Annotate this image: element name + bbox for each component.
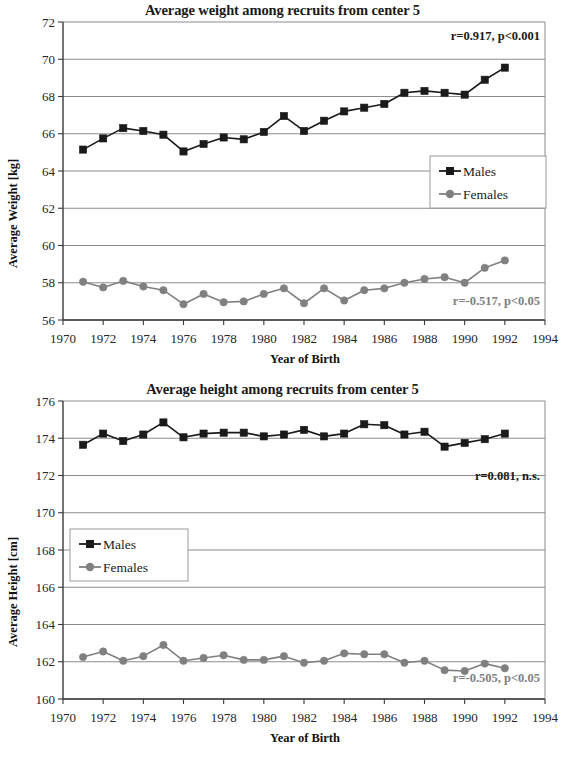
data-point-females: [501, 257, 508, 264]
data-point-females: [280, 285, 287, 292]
legend-marker-females: [86, 563, 94, 571]
data-point-females: [160, 641, 167, 648]
y-axis-tick-label: 172: [36, 468, 56, 483]
data-point-males: [461, 91, 468, 98]
x-axis-tick-label: 1992: [492, 710, 518, 725]
series-line-females: [83, 260, 505, 304]
data-point-males: [381, 100, 388, 107]
data-point-males: [220, 134, 227, 141]
y-axis-tick-label: 170: [36, 505, 56, 520]
y-axis-tick-label: 176: [36, 394, 56, 409]
data-point-females: [79, 278, 86, 285]
data-point-females: [381, 651, 388, 658]
data-point-males: [160, 131, 167, 138]
series-line-males: [83, 68, 505, 152]
data-point-males: [481, 76, 488, 83]
data-point-females: [381, 285, 388, 292]
data-point-females: [200, 290, 207, 297]
y-axis-tick-label: 60: [42, 238, 55, 253]
legend: MalesFemales: [70, 529, 188, 581]
data-point-females: [180, 300, 187, 307]
data-point-females: [140, 652, 147, 659]
x-axis-tick-label: 1982: [291, 710, 317, 725]
x-axis-tick-label: 1988: [412, 710, 438, 725]
data-point-males: [461, 439, 468, 446]
data-point-males: [280, 431, 287, 438]
x-axis-tick-label: 1972: [90, 331, 116, 346]
data-point-females: [220, 299, 227, 306]
x-axis-tick-label: 1978: [211, 710, 237, 725]
data-point-males: [200, 430, 207, 437]
data-point-females: [441, 666, 448, 673]
legend-marker-females: [446, 190, 454, 198]
data-point-females: [99, 648, 106, 655]
data-point-males: [180, 148, 187, 155]
data-point-males: [120, 125, 127, 132]
data-point-males: [441, 89, 448, 96]
legend-marker-males: [446, 167, 454, 175]
data-point-males: [481, 436, 488, 443]
data-point-males: [501, 430, 508, 437]
figure-page: Average weight among recruits from cente…: [0, 0, 565, 758]
x-axis-tick-label: 1994: [532, 331, 559, 346]
data-point-males: [381, 422, 388, 429]
y-axis-tick-label: 64: [42, 164, 56, 179]
data-point-males: [401, 89, 408, 96]
data-point-males: [441, 443, 448, 450]
legend-label-females: Females: [463, 187, 508, 202]
data-point-females: [361, 287, 368, 294]
data-point-males: [280, 112, 287, 119]
males-correlation-annotation: r=0.917, p<0.001: [451, 29, 540, 43]
data-point-males: [300, 426, 307, 433]
legend-label-females: Females: [103, 560, 148, 575]
females-correlation-annotation: r=-0.505, p<0.05: [453, 671, 540, 685]
y-axis-tick-label: 164: [36, 617, 56, 632]
data-point-males: [160, 419, 167, 426]
y-axis-tick-label: 56: [42, 313, 56, 328]
data-point-females: [481, 264, 488, 271]
data-point-females: [401, 659, 408, 666]
x-axis-tick-label: 1974: [130, 710, 157, 725]
data-point-females: [260, 290, 267, 297]
x-axis-tick-label: 1982: [291, 331, 317, 346]
data-point-females: [220, 652, 227, 659]
x-axis-tick-label: 1972: [90, 710, 116, 725]
height-plot-area: 1601621641661681701721741761970197219741…: [0, 379, 565, 758]
x-axis-tick-label: 1992: [492, 331, 518, 346]
y-axis-tick-label: 160: [36, 692, 56, 707]
x-axis-tick-label: 1976: [171, 710, 198, 725]
data-point-females: [340, 650, 347, 657]
y-axis-tick-label: 68: [42, 89, 55, 104]
data-point-males: [140, 431, 147, 438]
y-axis-tick-label: 162: [36, 654, 56, 669]
data-point-females: [280, 652, 287, 659]
data-point-males: [260, 128, 267, 135]
y-axis-tick-label: 168: [36, 543, 56, 558]
y-axis-tick-label: 174: [36, 431, 56, 446]
weight-plot-area: 5658606264666870721970197219741976197819…: [0, 0, 565, 379]
data-point-females: [401, 279, 408, 286]
data-point-males: [320, 117, 327, 124]
y-axis-tick-label: 66: [42, 126, 56, 141]
data-point-males: [341, 430, 348, 437]
x-axis-tick-label: 1980: [251, 710, 277, 725]
x-axis-tick-label: 1988: [412, 331, 438, 346]
y-axis-tick-label: 62: [42, 201, 55, 216]
data-point-males: [401, 431, 408, 438]
legend-label-males: Males: [103, 537, 136, 552]
data-point-females: [120, 657, 127, 664]
females-correlation-annotation: r=-0.517, p<0.05: [453, 294, 540, 308]
data-point-males: [320, 433, 327, 440]
data-point-males: [300, 127, 307, 134]
x-axis-tick-label: 1970: [50, 710, 76, 725]
y-axis-tick-label: 70: [42, 52, 55, 67]
data-point-females: [240, 298, 247, 305]
x-axis-tick-label: 1976: [171, 331, 198, 346]
data-point-males: [180, 434, 187, 441]
data-point-males: [120, 437, 127, 444]
data-point-males: [220, 429, 227, 436]
x-axis-tick-label: 1970: [50, 331, 76, 346]
data-point-males: [361, 421, 368, 428]
data-point-females: [300, 659, 307, 666]
x-axis-tick-label: 1986: [371, 331, 398, 346]
